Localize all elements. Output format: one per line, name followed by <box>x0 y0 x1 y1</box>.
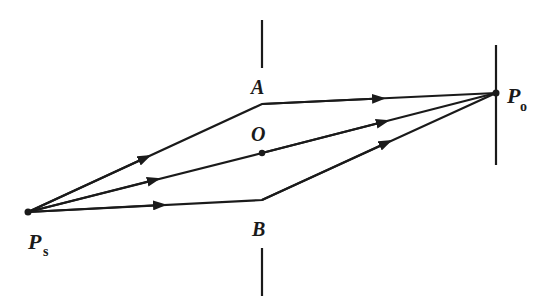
label-po-subscript: o <box>520 99 527 114</box>
point-ps-dot <box>25 209 32 216</box>
point-o-dot <box>259 150 265 156</box>
point-po-dot <box>493 90 500 97</box>
ray-diagram: A O B P s P o <box>0 0 556 305</box>
label-o: O <box>251 123 265 145</box>
label-po: P <box>506 83 521 108</box>
label-ps-subscript: s <box>43 244 49 259</box>
label-b: B <box>251 218 265 240</box>
label-ps: P <box>27 229 42 254</box>
label-a: A <box>249 76 264 98</box>
